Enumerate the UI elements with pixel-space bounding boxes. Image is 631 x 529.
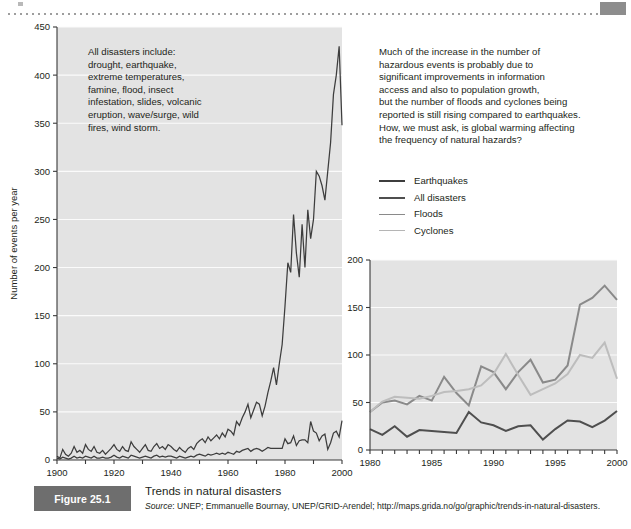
y-tick-label: 400 xyxy=(34,70,50,81)
legend-item-earthquakes: Earthquakes xyxy=(379,173,468,190)
chart-legend: EarthquakesAll disastersFloodsCyclones xyxy=(379,173,468,239)
legend-line-swatch xyxy=(379,197,405,199)
legend-item-floods: Floods xyxy=(379,206,468,223)
inset-chart-svg: 05010015020019801985199019952000 xyxy=(330,252,630,484)
x-tick-label: 1980 xyxy=(274,467,295,478)
y-axis-title: Number of events per year xyxy=(8,187,19,299)
y-tick-label: 250 xyxy=(34,214,50,225)
figure-page: 0501001502002503003504004501900192019401… xyxy=(0,0,631,529)
x-tick-label: 1920 xyxy=(103,467,124,478)
x-tick-label: 1990 xyxy=(483,457,504,468)
y-tick-label: 200 xyxy=(34,262,50,273)
x-tick-label: 1995 xyxy=(545,457,566,468)
x-tick-label: 2000 xyxy=(606,457,627,468)
x-tick-label: 1960 xyxy=(217,467,238,478)
legend-item-all-disasters: All disasters xyxy=(379,190,468,207)
y-tick-label: 0 xyxy=(358,444,363,455)
y-tick-label: 450 xyxy=(34,21,50,32)
y-tick-label: 150 xyxy=(34,310,50,321)
figure-source-text: : UNEP; Emmanuelle Bournay, UNEP/GRID-Ar… xyxy=(172,501,600,511)
figure-source-prefix: Source xyxy=(145,501,172,511)
legend-line-swatch xyxy=(379,180,405,182)
legend-item-label: All disasters xyxy=(414,193,466,203)
legend-line-swatch xyxy=(379,214,405,215)
y-tick-label: 100 xyxy=(34,358,50,369)
x-tick-label: 1980 xyxy=(359,457,380,468)
figure-source: Source: UNEP; Emmanuelle Bournay, UNEP/G… xyxy=(145,501,600,511)
figure-number-badge: Figure 25.1 xyxy=(34,486,131,511)
inset-chart: 05010015020019801985199019952000 xyxy=(330,252,630,484)
y-tick-label: 200 xyxy=(347,254,363,265)
page-top-dotted-rule xyxy=(6,13,625,15)
x-tick-label: 1985 xyxy=(421,457,442,468)
note-commentary: Much of the increase in the number of ha… xyxy=(379,46,619,147)
figure-title: Trends in natural disasters xyxy=(145,484,281,497)
page-corner-tick xyxy=(18,2,23,6)
y-tick-label: 50 xyxy=(39,406,50,417)
legend-line-swatch xyxy=(379,230,405,231)
legend-item-label: Floods xyxy=(414,209,443,219)
legend-item-label: Earthquakes xyxy=(414,176,468,186)
note-all-disasters-definition: All disasters include: drought, earthqua… xyxy=(88,46,298,134)
x-tick-label: 1940 xyxy=(160,467,181,478)
y-tick-label: 350 xyxy=(34,118,50,129)
y-tick-label: 300 xyxy=(34,166,50,177)
legend-item-label: Cyclones xyxy=(414,226,453,236)
x-tick-label: 1900 xyxy=(46,467,67,478)
y-tick-label: 50 xyxy=(352,397,363,408)
page-corner-marker xyxy=(600,2,626,15)
y-tick-label: 0 xyxy=(45,454,50,465)
y-tick-label: 100 xyxy=(347,349,363,360)
y-tick-label: 150 xyxy=(347,302,363,313)
legend-item-cyclones: Cyclones xyxy=(379,223,468,240)
